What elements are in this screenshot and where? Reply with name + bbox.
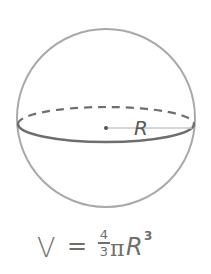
formula-exponent: 3: [144, 229, 152, 243]
radius-label: R: [134, 116, 148, 140]
sphere-outline: [17, 29, 195, 207]
formula-equals: =: [67, 232, 87, 260]
fraction-numerator: 4: [100, 227, 108, 242]
equator-back-dashed: [18, 107, 194, 124]
center-dot: [104, 126, 108, 130]
formula-fraction: 4 3: [98, 228, 110, 258]
formula-radius: R: [126, 233, 143, 261]
volume-formula: V = 4 3 π R 3: [0, 228, 211, 268]
formula-pi: π: [110, 236, 124, 261]
formula-volume-symbol: V: [37, 232, 55, 263]
fraction-denominator: 3: [100, 244, 108, 259]
